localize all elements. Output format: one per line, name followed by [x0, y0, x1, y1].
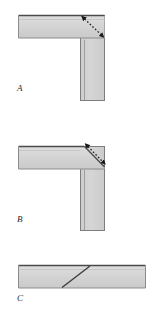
- joint-diagram-figure: A B: [0, 0, 161, 313]
- panel-c: C: [17, 266, 146, 304]
- horizontal-beam-body: [19, 266, 146, 289]
- panel-b: B: [17, 144, 105, 231]
- panel-a-horizontal-member: [19, 16, 105, 39]
- panel-b-label: B: [17, 214, 23, 224]
- panel-c-label: C: [17, 293, 24, 303]
- panel-a: A: [16, 16, 105, 101]
- panel-a-label: A: [16, 83, 23, 93]
- horizontal-beam-body: [19, 16, 105, 39]
- panel-c-horizontal-member: [19, 266, 146, 289]
